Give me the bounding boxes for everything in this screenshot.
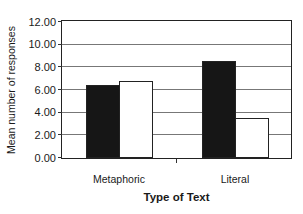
bar-literal-series-1	[202, 61, 236, 158]
bar-metaphoric-series-2	[119, 81, 153, 158]
y-axis-label: Mean number of responses	[4, 20, 18, 160]
y-tick-label: 2.00	[18, 129, 56, 141]
bar-literal-series-2	[235, 118, 269, 158]
y-tick-label: 8.00	[18, 61, 56, 73]
y-axis-label-text: Mean number of responses	[5, 26, 17, 154]
x-tick-metaphoric: Metaphoric	[74, 173, 164, 185]
gridline	[62, 66, 291, 67]
gridline	[62, 44, 291, 45]
x-axis-title: Type of Text	[61, 191, 292, 203]
x-axis-category-divider	[176, 159, 177, 163]
x-tick-literal: Literal	[190, 173, 280, 185]
y-tick-mark	[58, 157, 62, 158]
y-tick-mark	[58, 21, 62, 22]
y-tick-label: 4.00	[18, 106, 56, 118]
y-tick-label: 10.00	[18, 38, 56, 50]
y-tick-label: 12.00	[18, 16, 56, 28]
y-tick-label: 6.00	[18, 84, 56, 96]
bar-metaphoric-series-1	[86, 85, 120, 158]
y-tick-label: 0.00	[18, 152, 56, 164]
plot-area	[61, 20, 292, 159]
